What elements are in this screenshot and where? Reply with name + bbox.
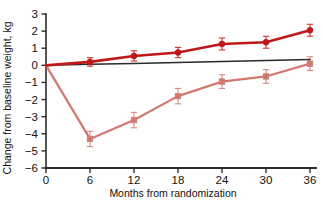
data-point-circle: [131, 53, 137, 59]
x-axis-tick-label: 0: [43, 174, 49, 186]
y-axis-title: Change from baseline weight, kg: [1, 21, 13, 174]
chart-background: [0, 0, 323, 202]
x-axis-title: Months from randomization: [109, 187, 236, 199]
x-axis-tick-label: 36: [304, 174, 317, 186]
y-axis-tick-label: −4: [25, 128, 39, 140]
x-axis-tick-label: 12: [128, 174, 141, 186]
y-axis-tick-label: 3: [32, 8, 38, 20]
data-point-square: [175, 93, 180, 98]
data-point-square: [307, 61, 312, 66]
data-point-square: [87, 136, 92, 141]
data-point-circle: [307, 27, 313, 33]
chart-container: 3210−1−2−3−4−5−6 061218243036 Months fro…: [0, 0, 323, 202]
data-point-square: [131, 117, 136, 122]
data-point-circle: [219, 41, 225, 47]
data-point-circle: [263, 39, 269, 45]
y-axis-tick-label: −1: [25, 76, 38, 88]
x-axis-tick-label: 24: [216, 174, 229, 186]
x-axis-tick-label: 30: [260, 174, 273, 186]
y-axis-tick-label: −5: [25, 145, 38, 157]
data-point-square: [219, 79, 224, 84]
data-point-circle: [87, 59, 93, 65]
data-point-square: [263, 74, 268, 79]
data-point-circle: [175, 50, 181, 56]
y-axis-tick-label: −6: [25, 162, 38, 174]
x-axis-tick-label: 18: [172, 174, 185, 186]
y-axis-tick-label: 2: [32, 25, 38, 37]
x-axis-tick-label: 6: [87, 174, 93, 186]
y-axis-tick-label: 1: [32, 42, 38, 54]
y-axis-tick-label: 0: [32, 59, 38, 71]
y-axis-tick-label: −3: [25, 111, 38, 123]
weight-change-line-chart: 3210−1−2−3−4−5−6 061218243036 Months fro…: [0, 0, 323, 202]
y-axis-tick-label: −2: [25, 94, 38, 106]
